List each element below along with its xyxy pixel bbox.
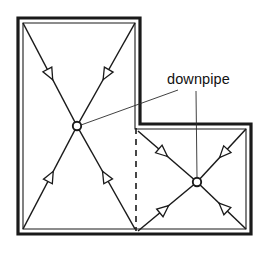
flow-left-top-left-arrowhead-icon <box>43 67 53 80</box>
roof-drainage-diagram: downpipe <box>0 0 263 257</box>
flow-right-bottom-left-arrowhead-icon <box>157 206 169 217</box>
leader-to-right-node <box>196 91 197 178</box>
roof-outline-inner <box>23 23 246 229</box>
leader-to-left-node <box>81 90 178 125</box>
downpipe-node-right <box>193 178 201 186</box>
flow-left-top-right-arrowhead-icon <box>103 67 113 79</box>
diagram-canvas: downpipe <box>0 0 263 257</box>
flow-left-bottom-right-arrowhead-icon <box>103 171 113 183</box>
downpipe-label: downpipe <box>167 71 230 87</box>
flow-left-bottom-left-arrowhead-icon <box>43 171 53 184</box>
downpipe-node-left <box>73 122 81 130</box>
